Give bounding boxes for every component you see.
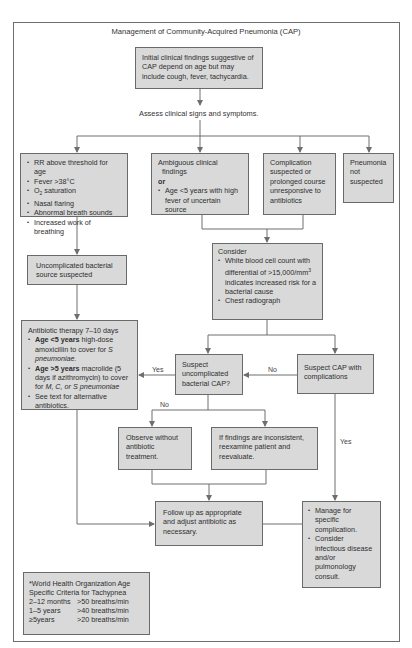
under5-label: Age <5 years: [35, 335, 80, 344]
initial-findings-text: Initial clinical findings suggestive of …: [142, 53, 253, 81]
pneumonia-not-suspected-text: Pneumonia not suspected: [350, 158, 386, 186]
consider-radiograph: Chest radiograph: [218, 296, 317, 305]
uncomplicated-bacterial-box: Uncomplicated bacterial source suspected: [27, 255, 127, 285]
complication-suspected-text: Complication suspected or prolonged cour…: [270, 158, 326, 205]
consider-box: Consider White blood cell count with dif…: [212, 243, 323, 320]
ambiguous-age-item: Age <5 years with high fever of uncertai…: [158, 186, 242, 214]
manage-item: Manage for specific complication.: [308, 506, 375, 534]
who-heading: *World Health Organization Age Specific …: [29, 579, 144, 597]
manage-complication-box: Manage for specific complication. Consid…: [302, 501, 381, 588]
inconsistent-findings-box: If findings are inconsistent, reexamine …: [211, 427, 318, 470]
antibiotic-under5: Age <5 years high-dose amoxicillin to co…: [28, 335, 131, 363]
antibiotic-therapy-box: Antibiotic therapy 7–10 days Age <5 year…: [21, 320, 138, 410]
antibiotic-heading: Antibiotic therapy 7–10 days: [28, 326, 131, 335]
sign-rr: RR above threshold for age: [27, 158, 121, 177]
consider-heading: Consider: [218, 247, 317, 256]
assess-step: Assess clinical signs and symptoms.: [139, 109, 259, 118]
suspect-complications-text: Suspect CAP with complications: [304, 363, 361, 381]
sign-breath: Abnormal breath sounds: [27, 208, 121, 217]
consult-item: Consider infectious disease and/or pulmo…: [308, 534, 375, 581]
wbc-sup: 3: [308, 267, 311, 273]
follow-up-box: Follow up as appropriate and adjust anti…: [155, 501, 263, 546]
ambiguous-findings-box: Ambiguous clinical findings or Age <5 ye…: [151, 153, 249, 215]
who-rate: >50 breaths/min: [77, 597, 129, 606]
edge-label-yes-antibiotic: Yes: [152, 366, 163, 373]
who-rate: >40 breaths/min: [77, 606, 129, 615]
observe-box: Observe without antibiotic treatment.: [118, 427, 192, 470]
edge-label-yes-manage: Yes: [340, 438, 351, 445]
clinical-signs-box: RR above threshold for age Fever >38°C O…: [20, 153, 128, 217]
o2-suffix: saturation: [42, 186, 76, 195]
antibiotic-over5: Age >5 years macrolide (5 days if azithr…: [28, 364, 131, 392]
suspect-uncomplicated-box: Suspect uncomplicated bacterial CAP?: [175, 354, 243, 395]
over5-organism: M, C, or S pneumoniae: [45, 382, 119, 391]
over5-label: Age >5 years: [35, 364, 80, 373]
wbc-prefix: White blood cell count with differential…: [225, 256, 310, 277]
who-age: 2–12 months: [29, 597, 77, 606]
follow-up-text: Follow up as appropriate and adjust anti…: [163, 508, 242, 536]
ambiguous-line2: findings: [158, 167, 242, 176]
who-rate: >20 breaths/min: [77, 615, 129, 624]
uncomplicated-bacterial-text: Uncomplicated bacterial source suspected: [36, 261, 113, 279]
edge-label-no-observe: No: [160, 401, 169, 408]
who-row: 2–12 months >50 breaths/min: [29, 597, 144, 606]
suspect-uncomplicated-text: Suspect uncomplicated bacterial CAP?: [182, 360, 230, 388]
ambiguous-line1: Ambiguous clinical: [158, 158, 242, 167]
who-criteria-box: *World Health Organization Age Specific …: [23, 572, 150, 635]
sign-work: Increased work of breathing: [27, 218, 121, 237]
who-age: ≥5years: [29, 615, 77, 624]
who-row: ≥5years >20 breaths/min: [29, 615, 144, 624]
wbc-suffix: indicates increased risk for a bacterial…: [225, 278, 316, 296]
complication-suspected-box: Complication suspected or prolonged cour…: [263, 153, 336, 215]
who-row: 1–5 years >40 breaths/min: [29, 606, 144, 615]
who-age: 1–5 years: [29, 606, 77, 615]
sign-o2: O2 saturation: [27, 186, 121, 199]
antibiotic-alternatives: See text for alternative antibiotics.: [28, 392, 131, 411]
observe-text: Observe without antibiotic treatment.: [126, 433, 178, 461]
consider-wbc: White blood cell count with differential…: [218, 256, 317, 296]
suspect-complications-box: Suspect CAP with complications: [297, 354, 374, 394]
initial-findings-box: Initial clinical findings suggestive of …: [135, 47, 263, 89]
sign-fever: Fever >38°C: [27, 177, 121, 186]
inconsistent-findings-text: If findings are inconsistent, reexamine …: [219, 433, 304, 461]
sign-nasal: Nasal flaring: [27, 199, 121, 208]
ambiguous-or: or: [158, 177, 242, 186]
pneumonia-not-suspected-box: Pneumonia not suspected: [343, 153, 394, 203]
edge-label-no-complications: No: [268, 366, 277, 373]
